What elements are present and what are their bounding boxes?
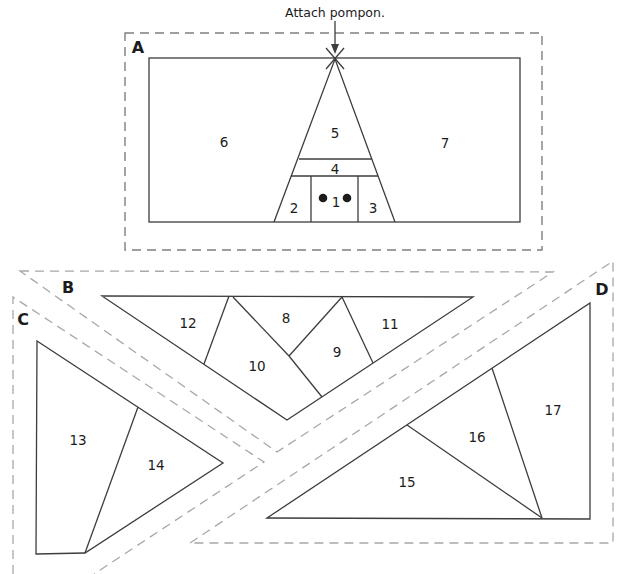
section-a: Attach pompon. A 6 7 5 4 2 1 3 bbox=[125, 5, 542, 250]
piece-6-number: 6 bbox=[220, 134, 229, 150]
section-d-block-outline bbox=[267, 303, 590, 519]
piece-10-number: 10 bbox=[248, 358, 265, 374]
piece-3-number: 3 bbox=[369, 200, 378, 216]
right-eye-dot bbox=[343, 194, 352, 203]
section-b-seam-allowance-outline bbox=[20, 271, 553, 452]
piece-16-17-boundary bbox=[492, 368, 542, 518]
piece-12-10-boundary bbox=[204, 296, 229, 364]
section-d-label: D bbox=[595, 280, 608, 299]
section-c-seam-allowance-outline bbox=[13, 297, 264, 574]
piece-9-10-boundary bbox=[289, 356, 322, 397]
left-eye-dot bbox=[319, 194, 328, 203]
section-d: D 15 16 17 bbox=[190, 261, 613, 543]
piece-13-14-boundary bbox=[85, 407, 138, 553]
section-c: C 13 14 bbox=[13, 297, 264, 574]
piece-1-number: 1 bbox=[332, 194, 341, 210]
pattern-svg: Attach pompon. A 6 7 5 4 2 1 3 B 12 8 10… bbox=[0, 0, 628, 574]
piece-9-11-boundary bbox=[342, 297, 373, 363]
piece-8-10-boundary bbox=[233, 297, 289, 356]
piece-2-number: 2 bbox=[290, 200, 299, 216]
piece-14-number: 14 bbox=[147, 457, 164, 473]
pompon-arrow-head bbox=[331, 44, 339, 54]
piece-4-number: 4 bbox=[331, 161, 340, 177]
piece-16-number: 16 bbox=[468, 429, 485, 445]
section-c-block-outline bbox=[36, 341, 223, 554]
piece-5-number: 5 bbox=[331, 125, 340, 141]
section-b-label: B bbox=[62, 278, 74, 297]
section-b: B 12 8 10 9 11 bbox=[20, 271, 553, 452]
section-a-seam-allowance-outline bbox=[125, 33, 542, 250]
attach-pompon-label: Attach pompon. bbox=[285, 5, 385, 20]
piece-8-number: 8 bbox=[282, 310, 291, 326]
pattern-diagram: Attach pompon. A 6 7 5 4 2 1 3 B 12 8 10… bbox=[0, 0, 628, 574]
piece-13-number: 13 bbox=[69, 432, 86, 448]
piece-11-number: 11 bbox=[381, 316, 398, 332]
piece-17-number: 17 bbox=[544, 402, 561, 418]
piece-12-number: 12 bbox=[179, 315, 196, 331]
piece-7-number: 7 bbox=[441, 135, 450, 151]
section-c-label: C bbox=[17, 310, 29, 329]
section-a-label: A bbox=[132, 38, 145, 57]
piece-9-number: 9 bbox=[333, 344, 342, 360]
piece-15-number: 15 bbox=[398, 474, 415, 490]
